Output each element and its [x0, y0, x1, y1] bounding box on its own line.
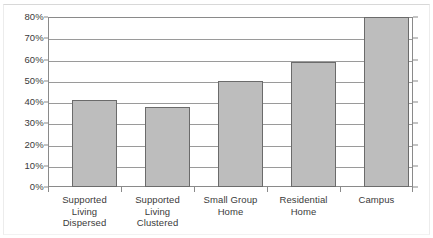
x-axis-label-line: Supported: [48, 194, 121, 206]
y-axis-label: 60%: [0, 55, 44, 65]
x-axis-label-line: Home: [267, 206, 340, 218]
x-axis-label-line: Small Group: [194, 194, 267, 206]
y-axis: 80% 70% 60% 50% 40% 30% 20% 10% 0%: [0, 0, 44, 238]
y-axis-label: 20%: [0, 140, 44, 150]
y-axis-label: 50%: [0, 76, 44, 86]
x-axis-label-line: Home: [194, 206, 267, 218]
y-axis-label: 10%: [0, 161, 44, 171]
bar-campus[interactable]: [364, 17, 409, 187]
x-axis-label-line: Living: [121, 206, 194, 218]
x-axis-label-line: Campus: [340, 194, 413, 206]
x-axis-tick: [340, 187, 341, 192]
y-axis-tick-right: [413, 123, 418, 124]
y-axis-tick-right: [413, 102, 418, 103]
x-axis-label-line: Residential: [267, 194, 340, 206]
y-axis-tick-right: [413, 38, 418, 39]
y-axis-label: 70%: [0, 34, 44, 44]
y-axis-label: 30%: [0, 119, 44, 129]
bars-layer: [48, 17, 413, 187]
x-axis-label-line: Supported: [121, 194, 194, 206]
x-axis-labels: Supported Living Dispersed Supported Liv…: [48, 194, 413, 238]
bar-residential-home[interactable]: [291, 62, 336, 187]
y-axis-tick-right: [413, 17, 418, 18]
y-axis-label: 80%: [0, 12, 44, 22]
y-axis-label: 0%: [0, 182, 44, 192]
y-axis-tick-right: [413, 59, 418, 60]
x-axis-tick: [48, 187, 49, 192]
x-axis-label-line: Dispersed: [48, 217, 121, 229]
x-axis-tick: [121, 187, 122, 192]
bar-supported-living-clustered[interactable]: [145, 107, 190, 187]
bar-supported-living-dispersed[interactable]: [72, 100, 117, 187]
x-axis-label-campus: Campus: [340, 194, 413, 206]
x-axis-tick: [194, 187, 195, 192]
x-axis-label-line: Clustered: [121, 217, 194, 229]
x-axis-tick: [267, 187, 268, 192]
y-axis-tick-right: [413, 165, 418, 166]
y-axis-tick-right: [413, 80, 418, 81]
y-axis-tick-right: [413, 144, 418, 145]
x-axis-tick: [412, 187, 413, 192]
x-axis-label-supported-living-dispersed: Supported Living Dispersed: [48, 194, 121, 229]
bar-small-group-home[interactable]: [218, 81, 263, 187]
bar-chart-figure: 80% 70% 60% 50% 40% 30% 20% 10% 0%: [0, 0, 433, 238]
x-axis-label-small-group-home: Small Group Home: [194, 194, 267, 217]
x-axis-label-residential-home: Residential Home: [267, 194, 340, 217]
y-axis-label: 40%: [0, 97, 44, 107]
x-axis-label-line: Living: [48, 206, 121, 218]
x-axis-label-supported-living-clustered: Supported Living Clustered: [121, 194, 194, 229]
y-axis-tick-right: [413, 187, 418, 188]
